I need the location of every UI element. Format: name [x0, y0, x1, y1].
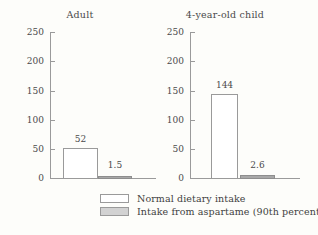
legend-swatch-aspartame-icon: [100, 207, 129, 216]
bar-adult-normal: [63, 148, 98, 179]
legend-item-normal: Normal dietary intake: [100, 192, 318, 205]
y-tick-label-50-adult: 50: [18, 145, 44, 154]
y-tick-label-200-adult: 200: [18, 57, 44, 66]
y-tick-150-child: [191, 91, 195, 92]
y-tick-50-child: [191, 149, 195, 150]
y-tick-0-adult: [51, 178, 55, 179]
y-tick-label-150-adult: 150: [18, 87, 44, 96]
y-tick-200-adult: [51, 61, 55, 62]
y-tick-label-0-adult: 0: [18, 174, 44, 183]
panel-child: 4-year-old child 250 200 150 100 50 0 14…: [140, 0, 318, 190]
y-tick-100-child: [191, 120, 195, 121]
panel-child-title: 4-year-old child: [150, 9, 300, 20]
y-tick-50-adult: [51, 149, 55, 150]
y-tick-label-150-child: 150: [158, 87, 184, 96]
y-tick-label-0-child: 0: [158, 174, 184, 183]
y-tick-100-adult: [51, 120, 55, 121]
y-tick-label-200-child: 200: [158, 57, 184, 66]
chart-legend: Normal dietary intake Intake from aspart…: [100, 192, 318, 218]
legend-label-normal: Normal dietary intake: [137, 193, 246, 204]
legend-item-aspartame: Intake from aspartame (90th percentile): [100, 205, 318, 218]
y-tick-label-100-adult: 100: [18, 116, 44, 125]
y-tick-label-100-child: 100: [158, 116, 184, 125]
y-tick-250-adult: [51, 32, 55, 33]
bar-adult-aspartame: [98, 176, 132, 179]
legend-label-aspartame: Intake from aspartame (90th percentile): [137, 206, 318, 217]
bar-value-child-aspartame: 2.6: [240, 161, 275, 170]
y-tick-label-250-adult: 250: [18, 28, 44, 37]
y-tick-0-child: [191, 178, 195, 179]
y-axis-line-child: [190, 32, 191, 179]
bar-value-adult-normal: 52: [63, 135, 98, 144]
panel-adult: Adult 250 200 150 100 50 0 52 1.5: [0, 0, 160, 190]
bar-child-normal: [211, 94, 238, 179]
y-axis-line-adult: [50, 32, 51, 179]
bar-value-adult-aspartame: 1.5: [98, 161, 132, 170]
bar-child-aspartame: [240, 175, 275, 179]
legend-swatch-normal-icon: [100, 194, 129, 203]
y-tick-label-250-child: 250: [158, 28, 184, 37]
y-tick-200-child: [191, 61, 195, 62]
chart-figure: Adult 250 200 150 100 50 0 52 1.5 4-year…: [0, 0, 318, 235]
y-tick-150-adult: [51, 91, 55, 92]
panel-adult-title: Adult: [0, 9, 160, 20]
y-tick-label-50-child: 50: [158, 145, 184, 154]
y-tick-250-child: [191, 32, 195, 33]
bar-value-child-normal: 144: [207, 81, 242, 90]
